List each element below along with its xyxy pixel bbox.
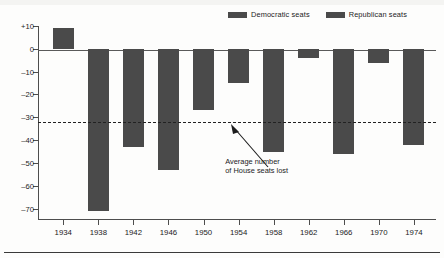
x-axis-label-1966: 1966 [335, 228, 352, 237]
bar-1942 [123, 49, 144, 147]
y-axis-label: –70 [21, 204, 34, 213]
y-axis-label: –20 [21, 90, 34, 99]
y-axis-label: +10 [21, 22, 34, 31]
y-axis-label: –30 [21, 113, 34, 122]
x-axis-label-1946: 1946 [160, 228, 177, 237]
x-axis-label-1938: 1938 [90, 228, 107, 237]
x-axis-tick [168, 219, 169, 225]
bar-1950 [193, 49, 214, 111]
bar-1946 [158, 49, 179, 170]
bar-1966 [333, 49, 354, 154]
x-axis-label-1958: 1958 [265, 228, 282, 237]
x-axis-label-1934: 1934 [55, 228, 72, 237]
x-axis-label-1962: 1962 [300, 228, 317, 237]
scan-edge [0, 0, 444, 5]
y-axis-label: –40 [21, 136, 34, 145]
bar-1970 [368, 49, 389, 63]
x-axis-tick [204, 219, 205, 225]
x-axis-tick [414, 219, 415, 225]
legend-swatch-republican [326, 12, 345, 18]
average-annotation-text: Average number of House seats lost [225, 157, 288, 176]
bar-1962 [298, 49, 319, 58]
x-axis-tick [274, 219, 275, 225]
x-axis-label-1954: 1954 [230, 228, 247, 237]
x-axis-tick [239, 219, 240, 225]
x-axis-tick [379, 219, 380, 225]
x-axis-label-1950: 1950 [195, 228, 212, 237]
legend-item-democratic: Democratic seats [228, 10, 310, 19]
bar-1974 [403, 49, 424, 145]
annotation-line-1: Average number [225, 157, 288, 167]
bar-1934 [53, 28, 74, 49]
bottom-divider-rule [4, 252, 440, 253]
x-axis-label-1942: 1942 [125, 228, 142, 237]
chart-legend: Democratic seats Republican seats [228, 10, 407, 19]
legend-item-republican: Republican seats [326, 10, 407, 19]
bar-chart-figure: Democratic seats Republican seats +100–1… [0, 0, 444, 258]
annotation-line-2: of House seats lost [225, 166, 288, 176]
y-axis-label: 0 [30, 44, 34, 53]
legend-label-republican: Republican seats [349, 10, 407, 19]
x-axis-tick [63, 219, 64, 225]
bar-1954 [228, 49, 249, 83]
y-axis-label: –10 [21, 67, 34, 76]
x-axis-tick [98, 219, 99, 225]
legend-label-democratic: Democratic seats [251, 10, 310, 19]
x-axis-tick [309, 219, 310, 225]
x-axis-tick [133, 219, 134, 225]
legend-swatch-democratic [228, 12, 247, 18]
plot-area: +100–10–20–30–40–50–60–70 19341938194219… [38, 26, 436, 220]
x-axis-tick [344, 219, 345, 225]
y-axis-label: –60 [21, 181, 34, 190]
y-axis-line [38, 26, 39, 220]
y-axis-label: –50 [21, 158, 34, 167]
bar-1938 [88, 49, 109, 211]
x-axis-label-1970: 1970 [370, 228, 387, 237]
x-axis-label-1974: 1974 [405, 228, 422, 237]
